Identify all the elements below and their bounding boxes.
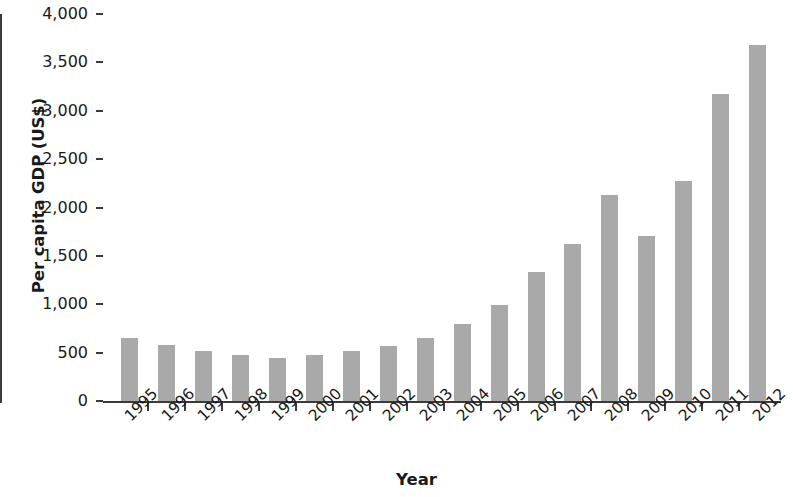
y-tick-mark <box>96 255 103 257</box>
bar <box>269 358 286 401</box>
y-tick-label: 1,000 <box>18 294 88 313</box>
y-axis-line <box>0 14 2 403</box>
bar <box>121 338 138 401</box>
bar <box>380 346 397 401</box>
bar <box>601 195 618 401</box>
y-tick-label: 2,500 <box>18 149 88 168</box>
bar <box>749 45 766 401</box>
y-tick-label: 3,500 <box>18 52 88 71</box>
y-tick-mark <box>96 352 103 354</box>
y-tick-mark <box>96 13 103 15</box>
bar <box>158 345 175 401</box>
bar <box>564 244 581 401</box>
bar <box>638 236 655 401</box>
y-tick-mark <box>96 207 103 209</box>
bar-chart: Per capita GDP (US$) 05001,0001,5002,000… <box>0 0 793 497</box>
y-tick-label: 1,500 <box>18 246 88 265</box>
bar <box>195 351 212 401</box>
x-axis-title-text: Year <box>396 470 437 489</box>
bar <box>232 355 249 401</box>
bar <box>491 305 508 401</box>
y-tick-label: 0 <box>18 391 88 410</box>
bar <box>417 338 434 401</box>
x-axis-title: Year <box>0 470 793 489</box>
y-tick-mark <box>96 400 103 402</box>
y-tick-label: 2,000 <box>18 198 88 217</box>
bar <box>454 324 471 401</box>
y-tick-label: 500 <box>18 343 88 362</box>
bar <box>343 351 360 401</box>
y-tick-mark <box>96 303 103 305</box>
y-tick-label: 4,000 <box>18 4 88 23</box>
y-tick-mark <box>96 110 103 112</box>
bar <box>712 94 729 401</box>
bar <box>306 355 323 401</box>
y-tick-mark <box>96 61 103 63</box>
bar <box>675 181 692 401</box>
bar <box>528 272 545 401</box>
y-tick-mark <box>96 158 103 160</box>
y-tick-label: 3,000 <box>18 101 88 120</box>
